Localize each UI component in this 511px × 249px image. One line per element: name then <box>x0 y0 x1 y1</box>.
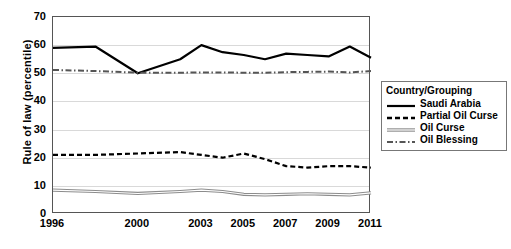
legend-item-saudi-arabia[interactable]: Saudi Arabia <box>386 98 502 110</box>
series-lines <box>53 17 371 214</box>
x-tick-label: 2000 <box>125 217 149 229</box>
y-tick-label: 50 <box>6 66 46 78</box>
x-tick-label: 1996 <box>40 217 64 229</box>
legend-key-icon <box>386 134 416 146</box>
series-line-oil-blessing <box>53 70 371 73</box>
series-line-saudi-arabia <box>53 45 371 73</box>
y-tick-label: 10 <box>6 179 46 191</box>
x-tick-label: 2009 <box>315 217 339 229</box>
legend: Country/Grouping Saudi ArabiaPartial Oil… <box>381 81 507 151</box>
legend-key-icon <box>386 98 416 110</box>
legend-item-label: Oil Blessing <box>420 134 478 146</box>
y-tick-label: 70 <box>6 10 46 22</box>
x-tick-label: 2003 <box>188 217 212 229</box>
y-tick-label: 60 <box>6 38 46 50</box>
legend-item-oil-curse[interactable]: Oil Curse <box>386 122 502 134</box>
series-line-partial-oil-curse <box>53 152 371 167</box>
legend-item-label: Oil Curse <box>420 122 464 134</box>
y-tick-label: 30 <box>6 123 46 135</box>
x-tick-label: 2011 <box>358 217 382 229</box>
legend-item-label: Saudi Arabia <box>420 98 481 110</box>
legend-items: Saudi ArabiaPartial Oil CurseOil CurseOi… <box>386 98 502 146</box>
legend-key-icon <box>386 110 416 122</box>
legend-key-icon <box>386 122 416 134</box>
plot-area <box>52 16 370 213</box>
x-tick-label: 2005 <box>231 217 255 229</box>
x-tick-label: 2007 <box>273 217 297 229</box>
chart-container: Rule of law (percentile) 010203040506070… <box>0 0 511 249</box>
legend-item-label: Partial Oil Curse <box>420 110 498 122</box>
y-tick-label: 20 <box>6 151 46 163</box>
legend-item-partial-oil-curse[interactable]: Partial Oil Curse <box>386 110 502 122</box>
legend-item-oil-blessing[interactable]: Oil Blessing <box>386 134 502 146</box>
y-tick-label: 40 <box>6 94 46 106</box>
legend-title: Country/Grouping <box>386 85 502 97</box>
